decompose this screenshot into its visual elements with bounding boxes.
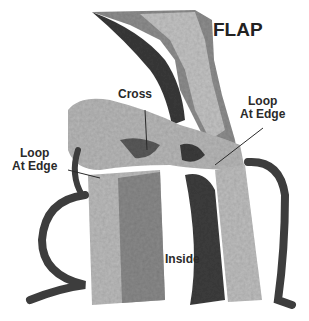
loop-left-line1: Loop	[12, 147, 57, 160]
right-column	[185, 165, 262, 305]
loop-left-line2: At Edge	[12, 160, 57, 173]
flap-label: FLAP	[213, 20, 263, 40]
loop-at-edge-right-label: Loop At Edge	[240, 95, 285, 120]
loop-right-line2: At Edge	[240, 108, 285, 121]
loop-at-edge-left-label: Loop At Edge	[12, 147, 57, 172]
inside-label: Inside	[165, 253, 200, 266]
loop-right-line1: Loop	[240, 95, 285, 108]
cross-label: Cross	[118, 88, 152, 101]
inside-column	[88, 170, 165, 305]
